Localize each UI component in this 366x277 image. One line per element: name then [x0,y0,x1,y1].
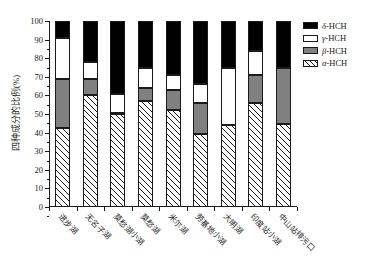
stacked-bar[interactable] [248,21,263,207]
legend-label: γ-HCH [322,33,346,43]
legend-item[interactable]: β-HCH [303,45,365,56]
stacked-bar[interactable] [221,21,236,207]
x-axis-category-label: 中山站排污口 [276,211,318,253]
x-axis-category-label: 无名子湖 [83,211,113,241]
legend-swatch-gray [303,47,318,54]
y-tick-major [45,188,49,189]
x-axis-category-label: 米尔湖 [166,211,191,236]
bar-segment-alpha[interactable] [138,101,153,207]
stacked-bar[interactable] [138,21,153,207]
stacked-bar[interactable] [193,21,208,207]
bar-segment-delta[interactable] [110,21,125,94]
y-tick-major [45,40,49,41]
legend-label: β-HCH [322,46,347,56]
bar-segment-alpha[interactable] [276,124,291,207]
bar-segment-delta[interactable] [248,21,263,51]
chart-container: 四种成分的比例(%) 0102030405060708090100 进步湖无名子… [0,0,366,277]
plot-area [49,21,297,207]
y-axis-tick-label: 80 [0,53,43,63]
legend-label: α-HCH [322,58,347,68]
bar-segment-beta[interactable] [276,68,291,125]
y-axis-tick-label: 30 [0,146,43,156]
y-tick-major [45,95,49,96]
bar-segment-beta[interactable] [138,88,153,101]
stacked-bar[interactable] [55,21,70,207]
y-axis-tick-label: 100 [0,16,43,26]
bar-segment-delta[interactable] [83,21,98,62]
bar-segment-alpha[interactable] [83,95,98,207]
legend-label: δ-HCH [322,21,347,31]
stacked-bar[interactable] [83,21,98,207]
bar-segment-alpha[interactable] [55,128,70,207]
y-axis-tick-label: 70 [0,72,43,82]
y-axis-tick-label: 0 [0,202,43,212]
bar-segment-beta[interactable] [166,90,181,110]
y-tick-major [45,77,49,78]
y-tick-major [45,133,49,134]
stacked-bar[interactable] [276,21,291,207]
bar-segment-alpha[interactable] [248,103,263,207]
x-axis-labels: 进步湖无名子湖莫愁湖小湖莫愁湖米尔湖劳基地小湖大明湖印度站小湖中山站排污口 [49,207,349,277]
legend-swatch-hatched [303,60,318,67]
legend-item[interactable]: α-HCH [303,58,365,69]
y-axis-tick-label: 40 [0,128,43,138]
bar-segment-beta[interactable] [83,79,98,96]
bar-segment-gamma[interactable] [193,84,208,103]
bar-segment-gamma[interactable] [138,68,153,88]
y-tick-major [45,151,49,152]
y-tick-minor [47,142,50,143]
legend-item[interactable]: γ-HCH [303,33,365,44]
bar-segment-alpha[interactable] [166,110,181,207]
legend-swatch-white [303,35,318,42]
y-tick-major [45,58,49,59]
bar-segment-alpha[interactable] [221,125,236,207]
bar-segment-delta[interactable] [193,21,208,84]
bar-segment-gamma[interactable] [221,68,236,126]
x-axis-category-label: 莫愁湖 [138,211,163,236]
y-axis-line [49,21,50,207]
legend-swatch-black [303,22,318,29]
bar-segment-gamma[interactable] [110,94,125,114]
y-axis-tick-label: 60 [0,90,43,100]
y-tick-minor [47,123,50,124]
bar-segment-beta[interactable] [55,79,70,128]
bar-segment-gamma[interactable] [55,38,70,79]
bar-segment-delta[interactable] [221,21,236,68]
bar-segment-gamma[interactable] [248,51,263,75]
bar-segment-beta[interactable] [248,75,263,103]
bar-segment-gamma[interactable] [166,75,181,90]
y-tick-minor [47,161,50,162]
x-axis-category-label: 大明湖 [221,211,246,236]
x-axis-category-label: 进步湖 [56,211,81,236]
y-tick-minor [47,68,50,69]
y-tick-major [45,114,49,115]
bar-segment-gamma[interactable] [83,62,98,79]
chart-legend: δ-HCHγ-HCHβ-HCHα-HCH [303,20,365,70]
y-tick-minor [47,198,50,199]
bar-segment-beta[interactable] [193,103,208,135]
y-axis-tick-label: 20 [0,165,43,175]
y-tick-minor [47,49,50,50]
y-tick-minor [47,86,50,87]
y-tick-minor [47,105,50,106]
stacked-bar[interactable] [110,21,125,207]
bar-segment-delta[interactable] [138,21,153,68]
y-axis-tick-label: 10 [0,183,43,193]
bar-segment-delta[interactable] [276,21,291,68]
y-tick-minor [47,179,50,180]
bar-segment-alpha[interactable] [193,134,208,207]
stacked-bar[interactable] [166,21,181,207]
bar-segment-alpha[interactable] [110,114,125,207]
bar-segment-delta[interactable] [166,21,181,75]
y-axis-tick-label: 50 [0,109,43,119]
y-tick-major [45,21,49,22]
y-tick-major [45,170,49,171]
bar-segment-delta[interactable] [55,21,70,38]
legend-item[interactable]: δ-HCH [303,20,365,31]
y-axis-tick-label: 90 [0,35,43,45]
